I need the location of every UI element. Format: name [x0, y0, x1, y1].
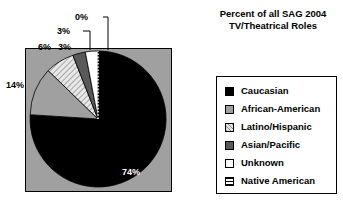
legend-label-native-american: Native American — [241, 176, 315, 186]
data-label-latino-hispanic: 6% — [38, 42, 51, 52]
legend-swatch-latino-hispanic-icon — [225, 123, 234, 132]
legend-swatch-asian-pacific-icon — [225, 141, 234, 150]
leader-line-native-american — [103, 17, 108, 50]
legend-swatch-caucasian-icon — [225, 87, 234, 96]
legend-label-african-american: African-American — [241, 104, 320, 114]
data-label-asian-pacific: 3% — [58, 42, 71, 52]
legend: Caucasian African-American Latino/Hispan… — [216, 76, 337, 194]
data-label-african-american: 14% — [6, 80, 24, 90]
legend-swatch-unknown-icon — [225, 159, 234, 168]
legend-swatch-native-american-icon — [225, 177, 234, 186]
legend-item-african-american[interactable]: African-American — [217, 100, 336, 118]
leader-line-unknown — [83, 31, 90, 50]
legend-label-unknown: Unknown — [241, 158, 284, 168]
legend-item-asian-pacific[interactable]: Asian/Pacific — [217, 136, 336, 154]
legend-label-asian-pacific: Asian/Pacific — [241, 140, 300, 150]
data-label-unknown: 3% — [57, 26, 70, 36]
legend-item-latino-hispanic[interactable]: Latino/Hispanic — [217, 118, 336, 136]
legend-swatch-african-american-icon — [225, 105, 234, 114]
chart-container: Percent of all SAG 2004 TV/Theatrical Ro… — [0, 0, 343, 215]
legend-item-caucasian[interactable]: Caucasian — [217, 82, 336, 100]
data-label-native-american: 0% — [75, 12, 88, 22]
legend-label-latino-hispanic: Latino/Hispanic — [241, 122, 312, 132]
legend-item-native-american[interactable]: Native American — [217, 172, 336, 190]
legend-label-caucasian: Caucasian — [241, 86, 289, 96]
legend-item-unknown[interactable]: Unknown — [217, 154, 336, 172]
